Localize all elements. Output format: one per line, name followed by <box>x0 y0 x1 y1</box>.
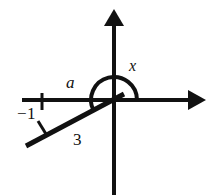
slanted-line-tick <box>38 121 46 134</box>
horizontal-axis-arrowhead-icon <box>188 90 206 110</box>
vertical-axis-arrowhead-icon <box>104 9 124 26</box>
ray-label-a: a <box>66 74 75 91</box>
segment-length-label: 3 <box>73 131 82 148</box>
x-intercept-label: −1 <box>17 105 36 122</box>
angle-label-x: x <box>129 58 136 74</box>
angle-diagram-figure: a x −1 3 <box>0 0 218 195</box>
diagram-canvas <box>0 0 218 195</box>
